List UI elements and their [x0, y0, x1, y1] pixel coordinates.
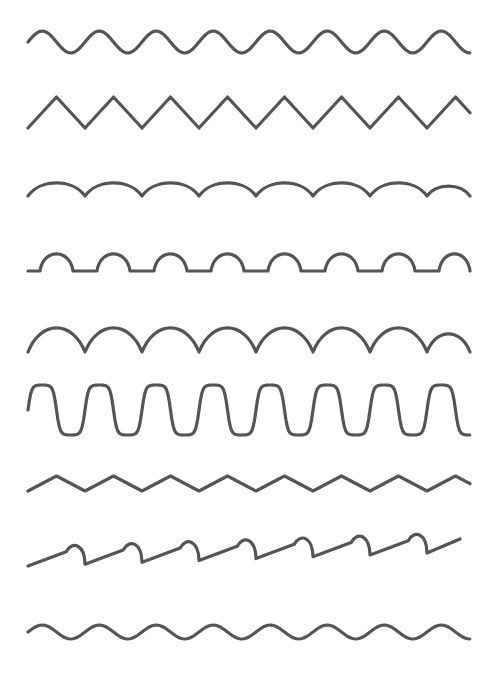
pattern-canvas [0, 0, 496, 674]
pattern-row-cursive-loop-slope [28, 534, 460, 566]
pattern-row-zigzag-shallow [28, 476, 470, 491]
pattern-tracing-worksheet [0, 0, 496, 674]
pattern-row-sine-wave-low [28, 625, 470, 639]
pattern-row-sine-wave-medium [28, 31, 470, 53]
pattern-row-arch-semicircle [28, 328, 470, 352]
pattern-row-square-wave-rounded [28, 385, 470, 435]
pattern-row-arch-shallow [28, 183, 470, 196]
pattern-row-zigzag-tall [28, 97, 470, 128]
pattern-row-bump-with-flat [28, 254, 470, 271]
